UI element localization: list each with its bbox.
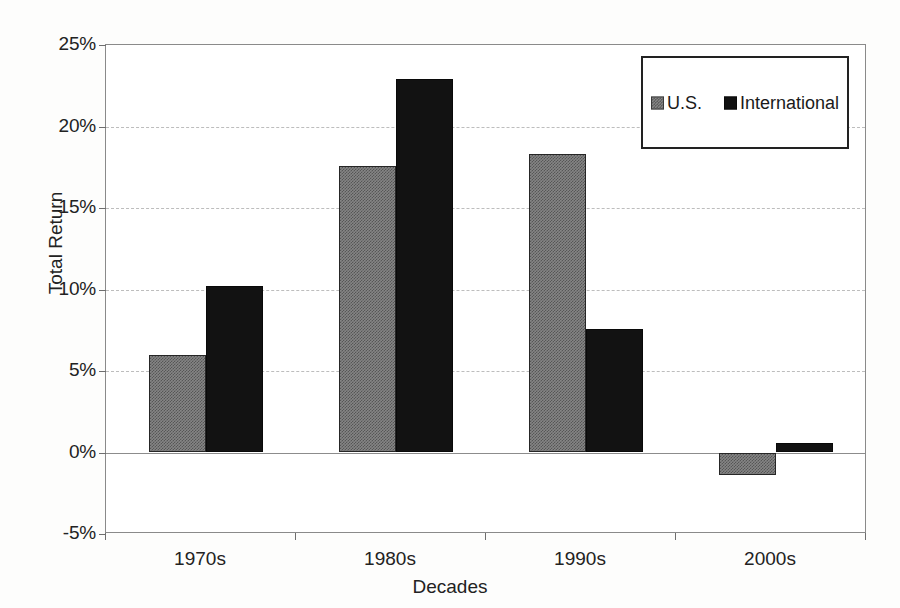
bar-us-2000s: [719, 453, 776, 476]
bar-us-1990s: [529, 154, 586, 452]
y-tick-label: 20%: [59, 115, 96, 137]
y-tick-mark: [99, 371, 106, 372]
bar-chart: 25% 20% 15% 10% 5% 0% -5% Total Return: [0, 0, 900, 608]
legend: U.S. International: [641, 56, 849, 149]
x-tick-label-1990s: 1990s: [554, 548, 606, 570]
bar-intl-1980s: [396, 79, 453, 452]
x-axis-tick-marks: [105, 533, 866, 543]
x-axis-title: Decades: [0, 576, 900, 598]
y-tick-mark: [99, 453, 106, 454]
bar-us-1980s: [339, 166, 396, 453]
y-tick-mark: [99, 127, 106, 128]
bar-intl-1970s: [206, 286, 263, 452]
bar-us-1970s: [149, 355, 206, 453]
y-tick-label: 0%: [69, 441, 96, 463]
x-tick-mark: [295, 533, 296, 540]
legend-swatch-international-icon: [724, 96, 737, 109]
bar-intl-1990s: [586, 329, 643, 453]
x-tick-mark: [485, 533, 486, 540]
x-tick-label-2000s: 2000s: [744, 548, 796, 570]
legend-entries: U.S. International: [643, 92, 847, 113]
x-tick-mark: [865, 533, 866, 540]
x-tick-label-1970s: 1970s: [174, 548, 226, 570]
x-tick-mark: [105, 533, 106, 540]
legend-entry-international: International: [724, 92, 839, 113]
legend-label-us: U.S.: [667, 92, 702, 113]
y-tick-mark: [99, 208, 106, 209]
y-tick-mark: [99, 290, 106, 291]
y-tick-label: 5%: [69, 359, 96, 381]
gridline-15: [106, 208, 865, 209]
x-tick-mark: [675, 533, 676, 540]
y-axis-title: Total Return: [45, 183, 67, 303]
y-tick-label: -5%: [63, 522, 96, 544]
x-tick-label-1980s: 1980s: [364, 548, 416, 570]
plot-area: U.S. International: [105, 44, 866, 533]
bar-intl-2000s: [776, 443, 833, 453]
legend-entry-us: U.S.: [651, 92, 702, 113]
legend-label-international: International: [740, 92, 839, 113]
legend-swatch-us-icon: [651, 96, 664, 109]
y-tick-label: 25%: [59, 33, 96, 55]
y-tick-mark: [99, 45, 106, 46]
